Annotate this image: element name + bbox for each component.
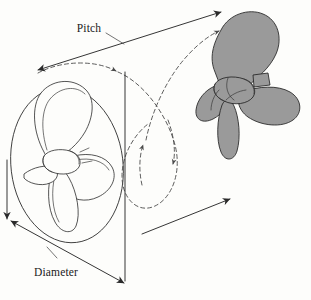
pitch-label: Pitch [77,22,101,34]
diagram-canvas: Pitch Diameter [0,0,311,300]
pitch-measure-arrow [38,12,221,70]
propeller-pitch-diameter-figure: Pitch Diameter [0,0,311,300]
propeller-shaded-end-position [196,12,300,159]
hub-outline-shaft-upper [80,148,89,152]
diameter-label: Diameter [34,266,78,278]
dashed-curve-descending-branch [168,120,174,164]
dashed-curve-ascending-branch [140,145,143,185]
dashed-curve-upper-sweep [38,63,116,73]
dashed-curve-loop [118,72,177,208]
blade-solid-shaft-fin [253,73,270,87]
propeller-outline-start-position [24,81,114,231]
pitch-measure-group [38,12,221,70]
dashed-curve-rise-to-end [146,31,219,140]
pitch-label-leader [106,33,124,44]
diameter-label-leader [47,247,57,258]
advance-arrow-group [142,199,230,234]
blade-solid-lower [218,100,239,159]
advance-direction-arrow [142,199,230,234]
